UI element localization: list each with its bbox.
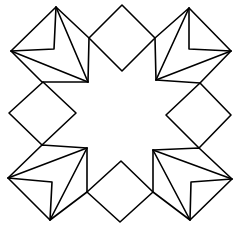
diamond-left bbox=[9, 82, 76, 145]
kite-fold-line bbox=[8, 148, 87, 178]
diamond-bottom bbox=[87, 161, 153, 222]
kite-outline bbox=[155, 8, 231, 83]
kite-outline bbox=[153, 148, 232, 220]
kite-bottom-right bbox=[153, 148, 232, 220]
diagram-canvas bbox=[0, 0, 240, 247]
star-pattern-figure bbox=[0, 0, 240, 247]
kite-group bbox=[8, 7, 232, 220]
diamond-right bbox=[166, 83, 231, 148]
diamond-group bbox=[9, 5, 231, 222]
diamond-top bbox=[89, 5, 155, 71]
kite-top-left bbox=[11, 7, 89, 82]
kite-outline bbox=[11, 7, 89, 82]
kite-outline bbox=[8, 145, 87, 220]
kite-fold-line bbox=[50, 148, 87, 220]
kite-top-right bbox=[155, 8, 231, 83]
kite-fold-line bbox=[153, 150, 190, 220]
kite-bottom-left bbox=[8, 145, 87, 220]
kite-fold-line bbox=[153, 150, 232, 179]
